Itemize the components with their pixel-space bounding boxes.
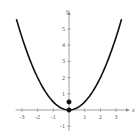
ticks: -3-2-1123-112345	[19, 26, 117, 129]
x-tick-label: -1	[51, 114, 56, 120]
y-tick-label: 5	[62, 26, 65, 32]
y-tick-label: -1	[60, 123, 65, 129]
x-axis-arrow-icon	[126, 108, 130, 112]
x-axis-label: x	[131, 107, 135, 113]
y-tick-label: 3	[62, 58, 65, 64]
x-tick-label: 1	[83, 114, 86, 120]
data-point	[67, 108, 71, 112]
parabola-chart: -3-2-1123-112345 x y	[0, 0, 138, 133]
y-tick-label: 4	[62, 42, 65, 48]
x-tick-label: 2	[99, 114, 102, 120]
y-axis-label: y	[65, 8, 69, 14]
x-tick-label: -2	[35, 114, 40, 120]
x-tick-label: -3	[19, 114, 24, 120]
axes	[16, 11, 130, 131]
y-tick-label: 2	[62, 75, 65, 81]
y-tick-label: 1	[62, 91, 65, 97]
x-tick-label: 3	[115, 114, 118, 120]
data-point	[67, 100, 71, 104]
